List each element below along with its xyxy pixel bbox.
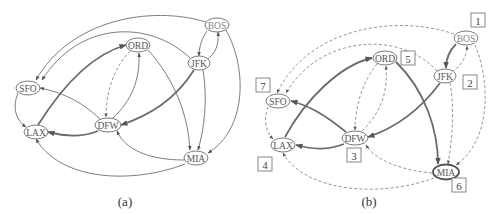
node-ord[interactable]: ORD: [126, 38, 150, 52]
order-box-lax-label: 4: [262, 159, 268, 171]
order-box-ord: 5: [401, 51, 415, 65]
node-dfw[interactable]: DFW: [342, 131, 368, 145]
node-lax-label: LAX: [273, 141, 293, 151]
order-box-dfw: 3: [347, 148, 361, 162]
edge-sfo-lax: [15, 93, 26, 127]
node-ord-label: ORD: [128, 41, 148, 51]
node-bos-label: BOS: [457, 34, 475, 44]
edge-jfk-sfo: [42, 32, 190, 80]
edge-ord-mia: [396, 62, 438, 164]
order-box-jfk-label: 2: [467, 77, 473, 89]
edge-dfw-lax: [48, 131, 98, 136]
node-dfw[interactable]: DFW: [95, 118, 121, 132]
order-box-mia: 6: [452, 178, 466, 192]
node-bos[interactable]: BOS: [205, 18, 229, 32]
node-lax[interactable]: LAX: [24, 125, 48, 139]
order-box-bos-label: 1: [475, 15, 481, 27]
node-dfw-label: DFW: [344, 134, 365, 144]
node-mia-label: MIA: [187, 154, 206, 164]
node-bos-label: BOS: [208, 21, 226, 31]
node-bos[interactable]: BOS: [454, 31, 478, 45]
node-mia[interactable]: MIA: [184, 151, 208, 165]
edge-jfk-dfw: [121, 70, 194, 125]
panel-b-nodes: BOS JFK ORD SFO DFW LAX: [266, 31, 478, 180]
flight-graph-figure: BOS JFK ORD SFO DFW LAX: [0, 0, 503, 215]
edge-jfk-bos: [206, 32, 218, 60]
node-sfo[interactable]: SFO: [266, 94, 290, 108]
order-box-jfk: 2: [463, 75, 477, 89]
edge-lax-ord: [38, 45, 126, 125]
order-box-dfw-label: 3: [351, 150, 357, 162]
edge-jfk-dfw: [368, 83, 440, 137]
node-mia-label: MIA: [437, 168, 456, 178]
edge-ord-dfw: [355, 64, 377, 130]
node-jfk-label: JFK: [437, 72, 453, 82]
node-dfw-label: DFW: [97, 121, 118, 131]
edge-mia-dfw: [366, 145, 432, 173]
panel-a-nodes: BOS JFK ORD SFO DFW LAX: [16, 18, 229, 165]
order-box-ord-label: 5: [405, 53, 411, 65]
edge-dfw-ord: [113, 53, 139, 118]
edge-sfo-lax: [266, 107, 273, 139]
node-ord-label: ORD: [375, 54, 395, 64]
node-jfk[interactable]: JFK: [188, 56, 210, 70]
edge-bos-jfk: [199, 31, 207, 56]
node-sfo[interactable]: SFO: [16, 81, 40, 95]
order-box-sfo-label: 7: [260, 80, 266, 92]
edge-jfk-mia: [198, 70, 205, 150]
order-box-sfo: 7: [256, 78, 270, 92]
node-jfk[interactable]: JFK: [434, 69, 456, 83]
edge-ord-dfw: [106, 51, 130, 117]
node-jfk-label: JFK: [191, 59, 207, 69]
order-box-bos: 1: [471, 13, 485, 27]
edge-dfw-lax: [296, 144, 344, 149]
edge-jfk-bos: [452, 46, 467, 72]
node-sfo-label: SFO: [269, 97, 287, 107]
edge-bos-mia: [208, 30, 240, 153]
edge-bos-jfk: [446, 44, 456, 68]
edge-lax-ord: [285, 58, 372, 137]
panel-b-caption: (b): [361, 194, 376, 209]
order-box-mia-label: 6: [456, 180, 462, 192]
edge-bos-sfo: [36, 15, 206, 80]
panel-b: BOS JFK ORD SFO DFW LAX: [256, 13, 485, 209]
edge-jfk-mia: [448, 83, 453, 164]
node-lax-label: LAX: [26, 128, 46, 138]
node-mia[interactable]: MIA: [433, 165, 459, 180]
edge-dfw-ord: [362, 66, 386, 131]
edge-mia-lax: [36, 139, 185, 176]
panel-a: BOS JFK ORD SFO DFW LAX: [15, 15, 240, 209]
edge-dfw-sfo: [291, 101, 346, 132]
edge-bos-mia: [456, 45, 485, 165]
node-ord[interactable]: ORD: [373, 51, 397, 65]
node-lax[interactable]: LAX: [271, 138, 295, 152]
order-box-lax: 4: [258, 157, 272, 171]
edge-mia-dfw: [117, 131, 184, 160]
panel-a-caption: (a): [118, 194, 132, 209]
node-sfo-label: SFO: [19, 84, 37, 94]
edge-dfw-sfo: [40, 88, 100, 119]
